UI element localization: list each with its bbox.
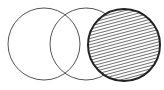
right-hatched-circle-fill	[88, 9, 160, 81]
three-circle-diagram	[0, 0, 164, 90]
left-circle	[8, 8, 80, 80]
